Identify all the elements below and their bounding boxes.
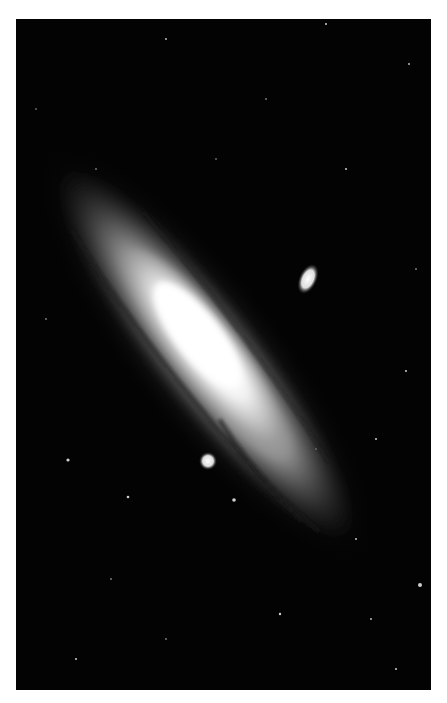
compact-companion xyxy=(199,452,217,470)
galaxy-photograph xyxy=(16,19,431,690)
spiral-galaxy xyxy=(16,97,431,611)
galaxy-image xyxy=(16,19,431,690)
elliptical-companion xyxy=(293,261,323,298)
